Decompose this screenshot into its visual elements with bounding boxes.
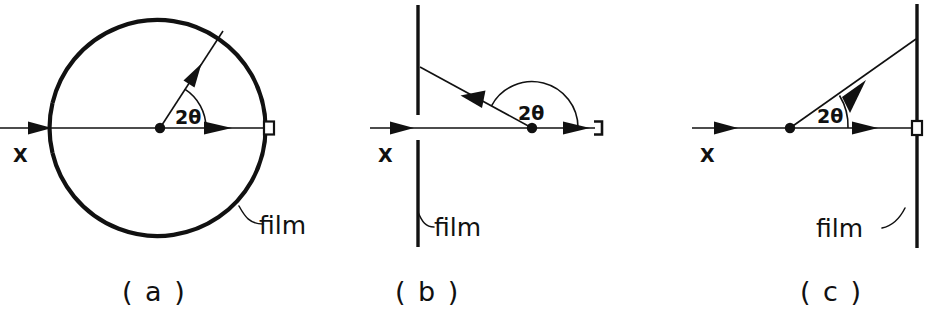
incident-beam-arrowhead <box>390 122 414 135</box>
two-theta-label: 2θ <box>817 105 843 127</box>
exit-port-box <box>912 121 922 135</box>
beam-label-x: X <box>378 144 393 166</box>
exit-port-box <box>264 122 274 135</box>
transmitted-beam-arrowhead <box>563 122 590 135</box>
incident-beam-arrowhead <box>714 122 738 135</box>
diffracted-ray-line <box>790 39 916 128</box>
transmitted-beam-arrowhead <box>204 122 232 135</box>
film-label: film <box>259 211 306 240</box>
film-label: film <box>816 214 863 243</box>
figure-xrd-camera-geometries: X 2θ film ( a ) X 2θ film ( b ) <box>0 0 932 324</box>
panel-c-transmission: X 2θ film ( c ) <box>620 0 932 324</box>
film-label: film <box>434 213 481 242</box>
exit-port-open <box>594 122 602 135</box>
diffracted-ray-arrowhead <box>184 64 202 88</box>
two-theta-label: 2θ <box>175 106 201 128</box>
panel-b-back-reflection: X 2θ film ( b ) <box>310 0 620 324</box>
panel-caption: ( c ) <box>800 276 863 307</box>
film-leader-line <box>882 208 905 228</box>
diffracted-ray-arrowhead <box>461 91 486 109</box>
panel-caption: ( b ) <box>395 276 460 307</box>
beam-label-x: X <box>13 144 28 166</box>
two-theta-label: 2θ <box>518 102 544 124</box>
panel-a-debye-scherrer: X 2θ film ( a ) <box>0 0 310 324</box>
beam-label-x: X <box>700 144 715 166</box>
panel-caption: ( a ) <box>122 276 187 307</box>
film-leader-line <box>418 212 434 227</box>
transmitted-beam-arrowhead <box>852 122 878 135</box>
